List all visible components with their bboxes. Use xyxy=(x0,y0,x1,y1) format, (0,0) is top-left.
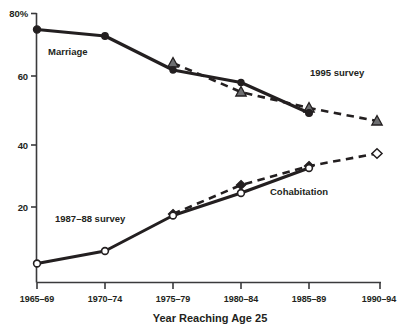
x-tick-label-1975-79: 1975–79 xyxy=(156,294,190,304)
annotation-cohabitation: Cohabitation xyxy=(270,186,328,197)
y-tick-label-60: 60 xyxy=(18,71,28,82)
marker-circle-1975-79 xyxy=(170,67,176,73)
marker-open-circle-1965-69 xyxy=(34,260,41,267)
marker-open-circle-1975-79 xyxy=(170,212,177,219)
marker-diamond-1980-84 xyxy=(236,181,245,190)
line-chart: 80% 60 40 20 1965–69 1970–74 1975–79 198… xyxy=(0,0,407,328)
marker-open-circle-1970-74 xyxy=(102,248,109,255)
marker-diamond-1990-94 xyxy=(372,149,382,158)
marker-open-circle-1985-89 xyxy=(306,165,313,172)
x-tick-label-1990-94: 1990–94 xyxy=(362,294,396,304)
annotation-1987-88-survey: 1987–88 survey xyxy=(55,213,126,224)
marker-triangle-1975-79 xyxy=(168,58,178,68)
y-tick-label-80: 80% xyxy=(9,8,28,19)
x-axis-title: Year Reaching Age 25 xyxy=(153,312,268,324)
chart-title-cropped xyxy=(0,0,407,9)
x-tick-label-1970-74: 1970–74 xyxy=(88,294,122,304)
annotation-1995-survey: 1995 survey xyxy=(310,67,365,78)
annotation-marriage: Marriage xyxy=(48,46,88,57)
x-tick-label-1965-69: 1965–69 xyxy=(20,294,54,304)
marker-circle-1985-89 xyxy=(306,110,313,117)
series-marriage-1987-88 xyxy=(33,26,312,117)
x-tick-label-1980-84: 1980–84 xyxy=(224,294,258,304)
marker-circle-1980-84 xyxy=(238,79,244,85)
marker-open-circle-1980-84 xyxy=(238,190,245,197)
y-tick-label-40: 40 xyxy=(18,140,28,151)
y-tick-label-20: 20 xyxy=(18,202,28,213)
marker-circle-1970-74 xyxy=(102,33,109,40)
x-tick-label-1985-89: 1985–89 xyxy=(292,294,326,304)
chart-plot-area: 80% 60 40 20 1965–69 1970–74 1975–79 198… xyxy=(0,0,407,328)
marker-circle-1965-69 xyxy=(33,26,40,33)
